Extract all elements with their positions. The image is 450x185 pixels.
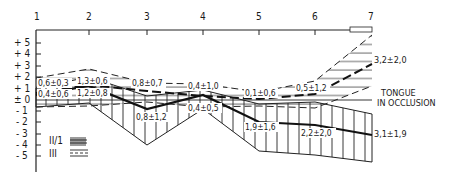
label-iii-2: 1,3±0,6	[77, 76, 108, 86]
label-ii1-5: 1,9±1,6	[245, 122, 276, 132]
annotation-in-occlusion: IN OCCLUSION	[377, 98, 436, 108]
legend: II/1 III	[49, 135, 88, 159]
horizontal-hatch-swatch-icon	[70, 150, 88, 156]
legend-label-iii: III	[49, 148, 57, 159]
y-tick: - 5	[16, 150, 28, 161]
top-box	[350, 27, 372, 32]
label-ii1-7: 3,1±1,9	[374, 129, 407, 139]
y-tick: - 3	[16, 128, 28, 139]
x-tick: 6	[312, 11, 318, 22]
x-tick-labels: 1 2 3 4 5 6 7	[34, 11, 374, 35]
label-ii1-1: 0,4±0,6	[38, 89, 69, 99]
x-tick: 3	[144, 11, 150, 22]
label-iii-1: 0,6±0,3	[38, 78, 69, 88]
x-tick: 1	[34, 11, 40, 22]
y-tick: + 3	[14, 60, 30, 71]
label-ii1-2: 1,2±0,8	[77, 88, 108, 98]
y-tick: + 2	[14, 71, 30, 82]
label-ii1-6: 2,2±2,0	[301, 128, 332, 138]
x-tick: 2	[86, 11, 92, 22]
x-tick: 5	[256, 11, 262, 22]
label-iii-4: 0,4±1,0	[188, 81, 219, 91]
y-tick: ± 0	[14, 94, 30, 105]
label-iii-6: 0,5±1,2	[296, 83, 327, 93]
y-tick: - 2	[16, 116, 28, 127]
label-ii1-3: 0,8±1,2	[136, 112, 167, 122]
label-iii-3: 0,8±0,7	[132, 78, 163, 88]
label-iii-7: 3,2±2,0	[374, 55, 407, 65]
annotation-tongue: TONGUE	[380, 88, 416, 98]
label-ii1-4: 0,4±0,5	[188, 103, 219, 113]
y-tick: - 1	[16, 105, 28, 116]
x-tick: 4	[200, 11, 206, 22]
y-tick: + 4	[14, 48, 30, 59]
legend-label-ii1: II/1	[49, 135, 63, 146]
chart: 1 2 3 4 5 6 7 + 5 + 4 + 3	[0, 0, 450, 185]
y-tick: + 1	[14, 83, 30, 94]
y-tick: - 4	[16, 139, 28, 150]
label-iii-5: 0,1±0,6	[245, 88, 276, 98]
x-tick: 7	[368, 11, 374, 22]
vertical-hatch-swatch-icon	[70, 137, 87, 146]
y-tick: + 5	[14, 37, 30, 48]
